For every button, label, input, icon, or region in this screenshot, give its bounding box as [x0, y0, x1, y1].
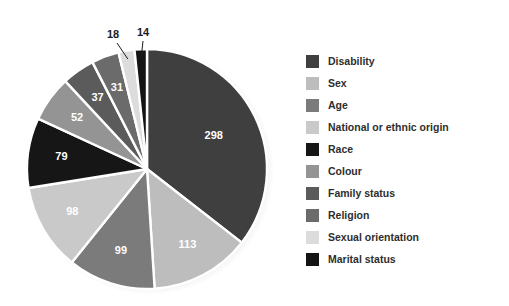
- legend-item-label: Disability: [328, 55, 375, 68]
- legend-swatch-icon: [306, 121, 319, 134]
- legend-item[interactable]: Colour: [306, 160, 506, 182]
- pie-slice-value-label: 298: [205, 129, 223, 141]
- legend-item-label: Age: [328, 99, 348, 112]
- legend-item-label: National or ethnic origin: [328, 121, 449, 134]
- legend-item[interactable]: Sexual orientation: [306, 226, 506, 248]
- legend-item[interactable]: Sex: [306, 72, 506, 94]
- legend-item-label: Family status: [328, 187, 395, 200]
- pie-chart-plot-area: 1814 298113999879523731: [0, 0, 290, 306]
- legend-swatch-icon: [306, 55, 319, 68]
- legend-swatch-icon: [306, 231, 319, 244]
- pie-chart-figure: 1814 298113999879523731 DisabilitySexAge…: [0, 0, 509, 306]
- legend-swatch-icon: [306, 165, 319, 178]
- legend-swatch-icon: [306, 77, 319, 90]
- pie-slice-value-label: 37: [91, 91, 103, 103]
- legend-item-label: Religion: [328, 209, 369, 222]
- legend-item-label: Race: [328, 143, 353, 156]
- legend-item[interactable]: Disability: [306, 50, 506, 72]
- legend-swatch-icon: [306, 99, 319, 112]
- pie-slices-group: [27, 49, 267, 289]
- legend-swatch-icon: [306, 209, 319, 222]
- legend-item[interactable]: Age: [306, 94, 506, 116]
- legend-item-label: Marital status: [328, 253, 396, 266]
- legend-item[interactable]: Religion: [306, 204, 506, 226]
- legend-swatch-icon: [306, 187, 319, 200]
- legend-item-label: Sex: [328, 77, 347, 90]
- legend-item-label: Colour: [328, 165, 362, 178]
- legend-item[interactable]: Marital status: [306, 248, 506, 270]
- legend-item-label: Sexual orientation: [328, 231, 419, 244]
- chart-legend: DisabilitySexAgeNational or ethnic origi…: [306, 50, 506, 270]
- legend-swatch-icon: [306, 143, 319, 156]
- legend-item[interactable]: Race: [306, 138, 506, 160]
- pie-slice-value-label: 79: [55, 150, 67, 162]
- pie-slice-value-label: 113: [179, 238, 197, 250]
- pie-slice-value-label: 31: [111, 81, 123, 93]
- pie-callout-value-label: 18: [107, 28, 119, 40]
- legend-item[interactable]: National or ethnic origin: [306, 116, 506, 138]
- pie-chart-svg: 1814 298113999879523731: [0, 0, 290, 306]
- pie-slice-value-label: 99: [115, 244, 127, 256]
- legend-swatch-icon: [306, 253, 319, 266]
- pie-slice-value-label: 52: [71, 111, 83, 123]
- legend-item[interactable]: Family status: [306, 182, 506, 204]
- pie-callout-value-label: 14: [137, 26, 150, 38]
- pie-slice-value-label: 98: [66, 205, 78, 217]
